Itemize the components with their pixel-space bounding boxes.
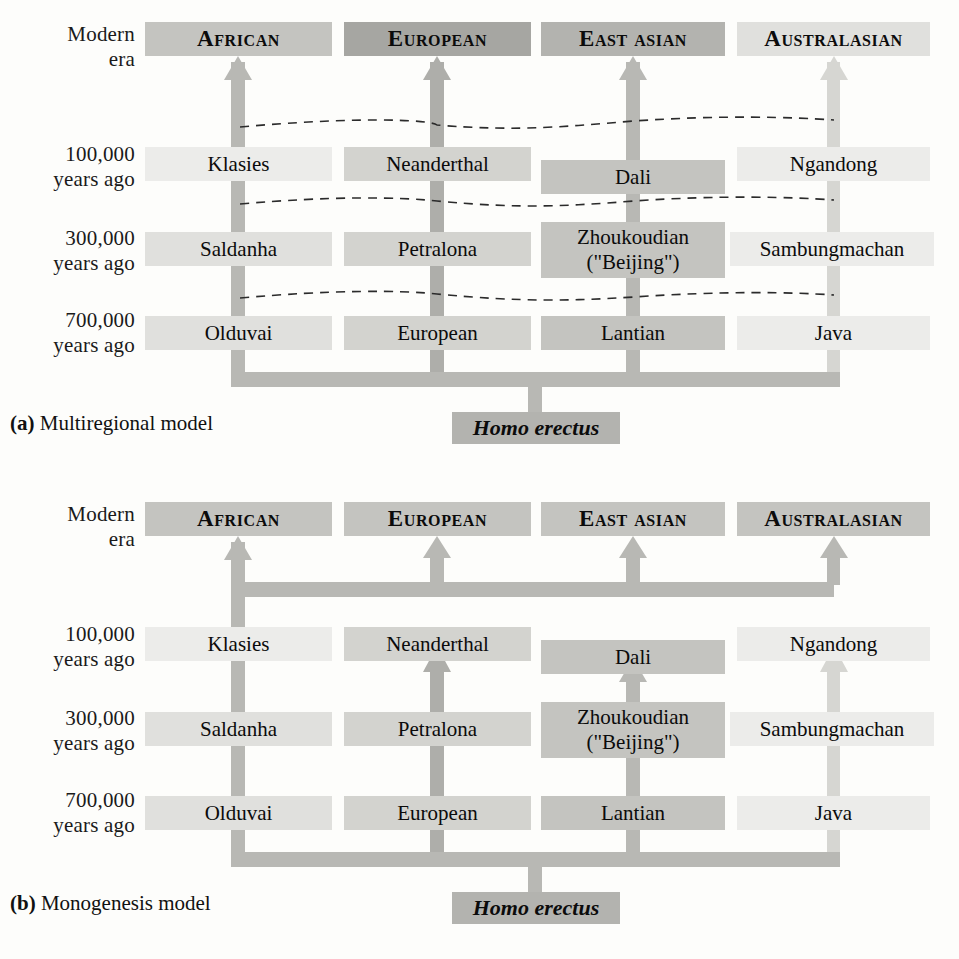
arrowhead-european	[423, 56, 451, 80]
box-label: African	[197, 27, 280, 51]
fossil-box-ngandong[interactable]: Ngandong	[737, 147, 930, 181]
box-label-line1: Zhoukoudian	[577, 225, 689, 250]
fossil-box-european-700k[interactable]: European	[344, 796, 531, 830]
box-label: Neanderthal	[386, 632, 489, 656]
fossil-box-lantian[interactable]: Lantian	[541, 316, 725, 350]
panel-a-caption: (a) Multiregional model	[10, 411, 213, 436]
box-label: Neanderthal	[386, 152, 489, 176]
box-label: Sambungmachan	[760, 717, 905, 741]
root-stem	[528, 866, 542, 892]
population-box-european-modern[interactable]: European	[344, 22, 531, 56]
box-label: Dali	[615, 645, 651, 669]
box-label: Australasian	[764, 27, 903, 51]
box-label: European	[388, 27, 487, 51]
box-label-line1: Zhoukoudian	[577, 705, 689, 730]
box-label: European	[397, 321, 477, 345]
root-label: Homo erectus	[473, 896, 600, 920]
dispersal-riser-east-asian	[626, 555, 640, 585]
arrowhead-east-asian	[619, 536, 647, 558]
box-label: Olduvai	[205, 321, 273, 345]
out-of-africa-dispersal-bar	[245, 582, 834, 597]
fossil-box-neanderthal[interactable]: Neanderthal	[344, 147, 531, 181]
box-label: Olduvai	[205, 801, 273, 825]
fossil-box-ngandong[interactable]: Ngandong	[737, 627, 930, 661]
time-label-300000-years-ago: 300,000 years ago	[5, 226, 135, 276]
time-label-line2: years ago	[53, 813, 135, 837]
time-label-modern-era: Modern era	[5, 22, 135, 72]
gene-flow-line-1	[0, 105, 959, 135]
box-label: East asian	[579, 507, 687, 531]
panel-b-caption-text: Monogenesis model	[41, 891, 211, 915]
time-label-line1: 300,000	[65, 226, 135, 250]
time-label-modern-era: Modern era	[5, 502, 135, 552]
box-label: European	[397, 801, 477, 825]
root-box-homo-erectus[interactable]: Homo erectus	[452, 412, 620, 444]
time-label-line2: era	[109, 527, 135, 551]
population-box-african-modern[interactable]: African	[145, 502, 332, 536]
box-label: Ngandong	[790, 632, 878, 656]
fossil-box-klasies[interactable]: Klasies	[145, 147, 332, 181]
box-label-line2: ("Beijing")	[587, 250, 680, 275]
time-label-line1: 700,000	[65, 788, 135, 812]
fossil-box-saldanha[interactable]: Saldanha	[145, 712, 332, 746]
fossil-box-java[interactable]: Java	[737, 796, 930, 830]
box-label: Australasian	[764, 507, 903, 531]
box-label: Java	[815, 321, 852, 345]
fossil-box-dali[interactable]: Dali	[541, 640, 725, 674]
fossil-box-zhoukoudian[interactable]: Zhoukoudian ("Beijing")	[541, 222, 725, 278]
population-box-african-modern[interactable]: African	[145, 22, 332, 56]
fossil-box-sambungmachan[interactable]: Sambungmachan	[730, 232, 934, 266]
fossil-box-sambungmachan[interactable]: Sambungmachan	[730, 712, 934, 746]
box-label: Sambungmachan	[760, 237, 905, 261]
time-label-line1: 100,000	[65, 622, 135, 646]
root-connector-bar	[231, 372, 840, 387]
panel-a-stage: Modern era 100,000 years ago 300,000 yea…	[0, 0, 959, 480]
population-box-east-asian-modern[interactable]: East asian	[541, 22, 725, 56]
time-label-line1: Modern	[67, 502, 135, 526]
arrowhead-east-asian	[619, 56, 647, 80]
dispersal-riser-european	[430, 555, 444, 585]
fossil-box-petralona[interactable]: Petralona	[344, 712, 531, 746]
population-box-east-asian-modern[interactable]: East asian	[541, 502, 725, 536]
panel-b-caption-tag: (b)	[10, 891, 36, 915]
gene-flow-line-3	[0, 280, 959, 310]
arrowhead-african	[224, 56, 252, 80]
box-label: Petralona	[398, 237, 477, 261]
panel-b-caption: (b) Monogenesis model	[10, 891, 211, 916]
fossil-box-klasies[interactable]: Klasies	[145, 627, 332, 661]
fossil-box-european-700k[interactable]: European	[344, 316, 531, 350]
time-label-100000-years-ago: 100,000 years ago	[5, 622, 135, 672]
time-label-line2: years ago	[53, 731, 135, 755]
box-label-line2: ("Beijing")	[587, 730, 680, 755]
root-connector-bar	[231, 852, 840, 867]
panel-monogenesis-model: Modern era 100,000 years ago 300,000 yea…	[0, 480, 959, 959]
time-label-line2: years ago	[53, 333, 135, 357]
root-label: Homo erectus	[473, 416, 600, 440]
fossil-box-saldanha[interactable]: Saldanha	[145, 232, 332, 266]
time-label-line1: Modern	[67, 22, 135, 46]
box-label: Saldanha	[200, 237, 277, 261]
fossil-box-neanderthal[interactable]: Neanderthal	[344, 627, 531, 661]
fossil-box-java[interactable]: Java	[737, 316, 930, 350]
gene-flow-line-2	[0, 186, 959, 216]
box-label: Saldanha	[200, 717, 277, 741]
arrowhead-australasian	[820, 56, 848, 80]
root-box-homo-erectus[interactable]: Homo erectus	[452, 892, 620, 924]
fossil-box-zhoukoudian[interactable]: Zhoukoudian ("Beijing")	[541, 702, 725, 758]
fossil-box-olduvai[interactable]: Olduvai	[145, 316, 332, 350]
box-label: Petralona	[398, 717, 477, 741]
panel-a-caption-tag: (a)	[10, 411, 35, 435]
panel-multiregional-model: Modern era 100,000 years ago 300,000 yea…	[0, 0, 959, 480]
population-box-european-modern[interactable]: European	[344, 502, 531, 536]
box-label: Lantian	[601, 801, 665, 825]
population-box-australasian-modern[interactable]: Australasian	[737, 22, 930, 56]
box-label: Ngandong	[790, 152, 878, 176]
fossil-box-lantian[interactable]: Lantian	[541, 796, 725, 830]
population-box-australasian-modern[interactable]: Australasian	[737, 502, 930, 536]
fossil-box-olduvai[interactable]: Olduvai	[145, 796, 332, 830]
time-label-700000-years-ago: 700,000 years ago	[5, 308, 135, 358]
panel-a-caption-text: Multiregional model	[40, 411, 213, 435]
time-label-line2: years ago	[53, 647, 135, 671]
fossil-box-dali[interactable]: Dali	[541, 160, 725, 194]
fossil-box-petralona[interactable]: Petralona	[344, 232, 531, 266]
